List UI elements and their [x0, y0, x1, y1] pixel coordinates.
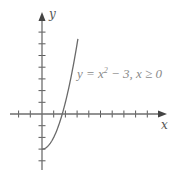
equation-rest: − 3, x ≥ 0: [108, 66, 163, 81]
parabola-curve: [42, 39, 78, 149]
x-axis-arrow-icon: [158, 111, 167, 118]
x-axis-label: x: [161, 118, 168, 132]
equation-annotation: y = x2 − 3, x ≥ 0: [75, 66, 162, 81]
axis-ticks: [19, 32, 148, 161]
y-axis-label: y: [48, 7, 56, 21]
function-graph: x y y = x2 − 3, x ≥ 0: [0, 0, 174, 178]
y-axis-arrow-icon: [39, 12, 46, 21]
equation-main: y = x: [75, 66, 104, 81]
